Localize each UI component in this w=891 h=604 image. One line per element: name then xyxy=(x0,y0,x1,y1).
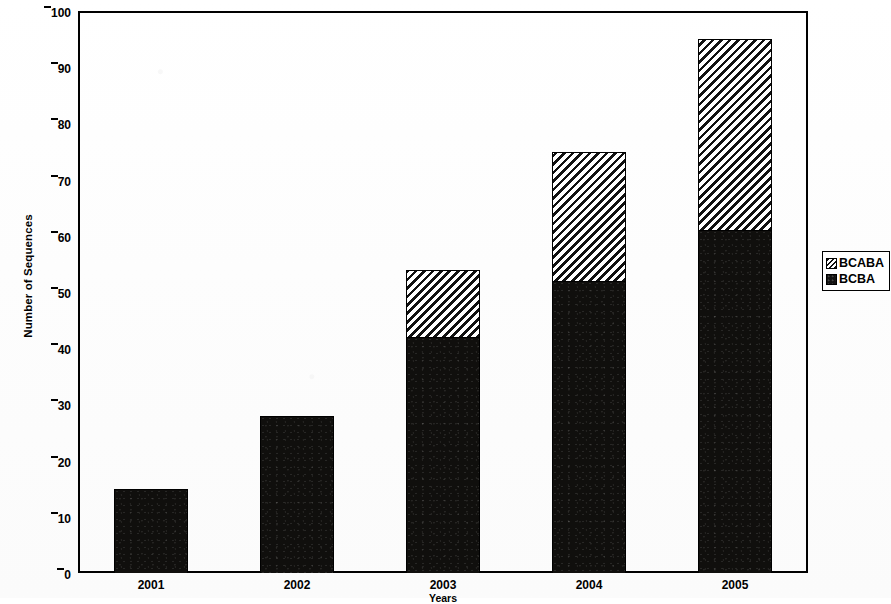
y-tick-mark xyxy=(51,231,58,233)
x-axis-title: Years xyxy=(78,592,808,604)
legend-label-bcaba: BCABA xyxy=(839,257,884,270)
x-tick-label: 2001 xyxy=(96,578,206,592)
legend-swatch-hatch-icon xyxy=(826,258,837,269)
bar-segment-bcaba xyxy=(552,152,626,281)
x-tick-label: 2002 xyxy=(242,578,352,592)
y-tick-mark xyxy=(51,287,58,289)
y-tick-label: 90 xyxy=(58,63,80,75)
bar-segment-bcaba xyxy=(698,39,772,230)
y-tick-mark xyxy=(51,175,58,177)
y-axis-title: Number of Sequences xyxy=(22,186,34,366)
bar-series-group xyxy=(78,11,808,573)
y-tick-label: 50 xyxy=(58,288,80,300)
y-tick-mark xyxy=(51,512,58,514)
bar-segment-bcba xyxy=(552,281,626,573)
y-tick-mark xyxy=(51,343,58,345)
chart-legend: BCABA BCBA xyxy=(822,251,890,291)
legend-item-bcba: BCBA xyxy=(826,271,884,287)
y-tick-mark xyxy=(57,568,64,570)
bar-column xyxy=(260,416,334,573)
x-tick-label: 2005 xyxy=(680,578,790,592)
y-tick-label: 10 xyxy=(58,513,80,525)
legend-swatch-solid-icon xyxy=(826,274,837,285)
y-tick-label: 70 xyxy=(58,176,80,188)
bar-column xyxy=(698,39,772,573)
y-tick-label: 100 xyxy=(51,7,80,19)
y-tick-mark xyxy=(44,6,51,8)
legend-item-bcaba: BCABA xyxy=(826,255,884,271)
bar-segment-bcba xyxy=(260,416,334,573)
y-tick-label: 60 xyxy=(58,232,80,244)
bar-column xyxy=(114,489,188,573)
bar-column xyxy=(406,270,480,573)
legend-label-bcba: BCBA xyxy=(839,273,875,286)
bar-column xyxy=(552,152,626,573)
y-tick-label: 30 xyxy=(58,400,80,412)
y-tick-mark xyxy=(51,456,58,458)
x-tick-label: 2003 xyxy=(388,578,498,592)
bar-segment-bcba xyxy=(406,337,480,573)
y-tick-label: 20 xyxy=(58,457,80,469)
bar-segment-bcaba xyxy=(406,270,480,337)
y-tick-mark xyxy=(51,62,58,64)
y-tick-mark xyxy=(51,399,58,401)
y-tick-label: 80 xyxy=(58,119,80,131)
y-tick-label: 40 xyxy=(58,344,80,356)
bar-segment-bcba xyxy=(698,230,772,573)
y-tick-mark xyxy=(51,118,58,120)
x-tick-label: 2004 xyxy=(534,578,644,592)
bar-segment-bcba xyxy=(114,489,188,573)
